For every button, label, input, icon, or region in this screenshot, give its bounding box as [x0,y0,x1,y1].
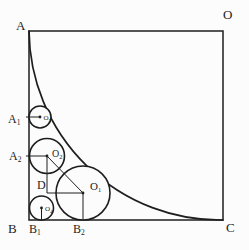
geometry-figure: A O B C A1 A2 B1 B2 D O1 O2 O3 O4 [0,0,249,250]
center-label-o2-base: O [52,148,59,159]
point-label-a1-base: A [8,112,17,126]
center-label-o2-sub: 2 [59,153,62,160]
point-label-a2-base: A [9,149,18,163]
point-label-a2-sub: 2 [18,155,22,164]
center-dot-o2 [46,155,49,158]
point-label-b2-base: B [73,222,81,236]
vertex-label-a: A [16,18,26,33]
point-label-b1-base: B [29,222,37,236]
center-label-o1-base: O [90,180,98,192]
center-dot-o3 [39,116,42,119]
point-label-a2: A2 [9,149,22,164]
point-label-d: D [37,178,46,192]
point-label-a1: A1 [8,112,21,127]
point-label-b1-sub: 1 [37,228,41,237]
vertex-label-o: O [223,7,232,22]
point-label-a1-sub: 1 [17,118,21,127]
vertex-label-b: B [8,221,17,236]
center-label-o1-sub: 1 [98,186,101,193]
vertex-label-c: C [226,220,235,235]
point-label-b2-sub: 2 [81,228,85,237]
point-label-b2: B2 [73,222,85,237]
point-label-b1: B1 [29,222,41,237]
center-dot-o4 [40,207,43,210]
center-dot-o1 [82,192,85,195]
